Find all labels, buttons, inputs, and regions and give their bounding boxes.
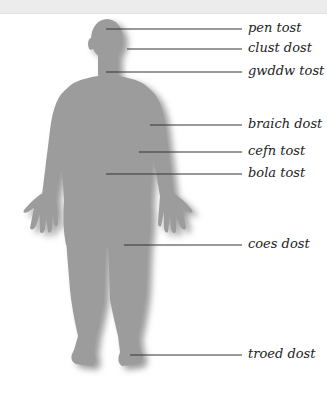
label-gwddw-tost: gwddw tost <box>248 64 324 78</box>
human-body-figure <box>0 0 327 397</box>
label-troed-dost: troed dost <box>248 347 315 361</box>
label-clust-dost: clust dost <box>248 41 312 55</box>
label-cefn-tost: cefn tost <box>248 144 305 158</box>
body-silhouette <box>24 19 193 366</box>
label-coes-dost: coes dost <box>248 237 310 251</box>
label-pen-tost: pen tost <box>248 21 301 35</box>
label-bola-tost: bola tost <box>248 166 305 180</box>
label-braich-dost: braich dost <box>248 117 322 131</box>
